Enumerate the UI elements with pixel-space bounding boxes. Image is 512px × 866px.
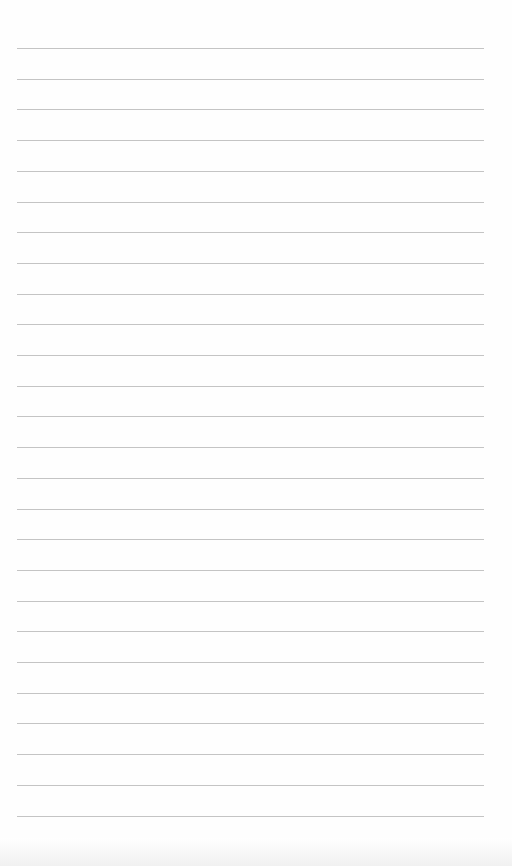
ruled-line — [17, 386, 484, 387]
ruled-line — [17, 601, 484, 602]
ruled-line — [17, 140, 484, 141]
ruled-line — [17, 447, 484, 448]
ruled-line — [17, 109, 484, 110]
ruled-line — [17, 232, 484, 233]
lined-paper-page — [0, 0, 512, 866]
ruled-line — [17, 631, 484, 632]
ruled-line — [17, 355, 484, 356]
ruled-line — [17, 478, 484, 479]
ruled-line — [17, 693, 484, 694]
ruled-line — [17, 294, 484, 295]
ruled-line — [17, 324, 484, 325]
ruled-line — [17, 416, 484, 417]
ruled-line — [17, 79, 484, 80]
ruled-line — [17, 723, 484, 724]
ruled-line — [17, 509, 484, 510]
ruled-line — [17, 816, 484, 817]
ruled-line — [17, 171, 484, 172]
ruled-line — [17, 570, 484, 571]
ruled-line — [17, 202, 484, 203]
ruled-line — [17, 662, 484, 663]
ruled-line — [17, 754, 484, 755]
ruled-line — [17, 785, 484, 786]
ruled-line — [17, 48, 484, 49]
ruled-line — [17, 263, 484, 264]
bottom-edge-shadow — [0, 838, 512, 866]
ruled-line — [17, 539, 484, 540]
